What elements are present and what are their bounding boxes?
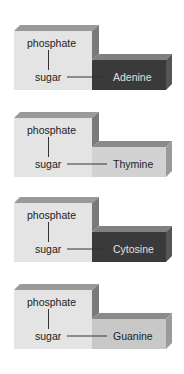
phosphate-label: phosphate <box>27 296 76 308</box>
nucleotide-block-shape <box>0 107 184 199</box>
phosphate-label: phosphate <box>27 124 76 136</box>
nucleotide-unit-thymine: phosphate sugar Thymine <box>0 107 184 199</box>
sugar-label: sugar <box>35 71 61 83</box>
nucleotide-block-shape <box>0 279 184 371</box>
sugar-label: sugar <box>35 330 61 342</box>
nucleotide-unit-cytosine: phosphate sugar Cytosine <box>0 192 184 284</box>
phosphate-label: phosphate <box>27 209 76 221</box>
base-label-adenine: Adenine <box>113 71 152 83</box>
nucleotide-unit-adenine: phosphate sugar Adenine <box>0 20 184 112</box>
nucleotide-block-shape <box>0 20 184 112</box>
nucleotide-block-shape <box>0 192 184 284</box>
base-label-cytosine: Cytosine <box>113 243 154 255</box>
phosphate-label: phosphate <box>27 37 76 49</box>
base-label-guanine: Guanine <box>113 330 153 342</box>
base-label-thymine: Thymine <box>113 158 153 170</box>
sugar-label: sugar <box>35 243 61 255</box>
nucleotide-unit-guanine: phosphate sugar Guanine <box>0 279 184 371</box>
sugar-label: sugar <box>35 158 61 170</box>
